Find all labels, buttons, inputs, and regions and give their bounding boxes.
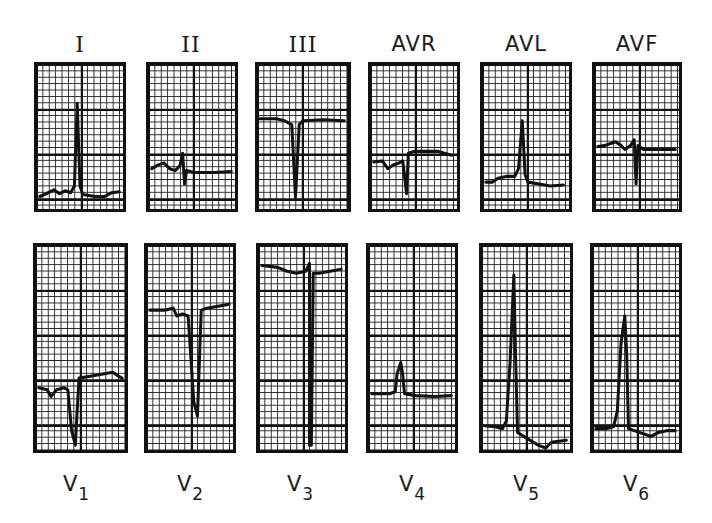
ecg-trace [372, 363, 451, 397]
ecg-grid-panel [592, 62, 682, 212]
lead-label: V4 [362, 472, 462, 504]
ecg-waveform [482, 246, 570, 450]
lead-label-text: V [513, 472, 528, 496]
lead-label-subscript: 6 [638, 484, 649, 504]
lead-label: AVR [364, 32, 464, 56]
lead-label: V2 [140, 472, 240, 504]
ecg-waveform [149, 65, 235, 209]
ecg-trace [598, 140, 675, 184]
ecg-trace [152, 153, 231, 184]
lead-label-subscript: 1 [78, 484, 89, 504]
lead-label: V5 [476, 472, 576, 504]
lead-label-text: II [181, 32, 200, 57]
lead-label-subscript: 3 [302, 484, 313, 504]
ecg-grid-panel [146, 62, 238, 212]
lead-label-text: AVF [616, 32, 658, 56]
ecg-waveform [36, 246, 125, 450]
ecg-waveform [369, 246, 455, 450]
lead-label-text: III [288, 32, 317, 57]
lead-label-text: V [399, 472, 414, 496]
lead-label-text: I [75, 32, 85, 57]
lead-label: III [253, 32, 353, 57]
ecg-grid-panel [34, 62, 126, 212]
ecg-waveform [483, 65, 569, 209]
lead-label: AVF [587, 32, 687, 56]
lead-label-text: AVL [505, 32, 547, 56]
lead-label-text: V [63, 472, 78, 496]
lead-label: V6 [586, 472, 686, 504]
lead-label-text: V [287, 472, 302, 496]
lead-label-text: V [177, 472, 192, 496]
ecg-trace [486, 121, 564, 186]
ecg-waveform [147, 246, 233, 450]
ecg-trace [40, 103, 119, 196]
lead-label: II [141, 32, 241, 57]
lead-label: V1 [26, 472, 126, 504]
ecg-waveform [258, 65, 348, 209]
ecg-grid-panel [33, 243, 128, 453]
ecg-trace [485, 275, 566, 448]
lead-label-subscript: 5 [528, 484, 539, 504]
lead-label-subscript: 4 [414, 484, 425, 504]
lead-label-subscript: 2 [192, 484, 203, 504]
ecg-trace [596, 316, 675, 436]
ecg-waveform [259, 246, 345, 450]
ecg-grid-panel [144, 243, 236, 453]
ecg-waveform [37, 65, 123, 209]
ecg-trace [39, 372, 122, 445]
ecg-grid-panel [255, 62, 351, 212]
ecg-grid-panel [368, 62, 460, 212]
ecg-trace [150, 304, 229, 416]
lead-label: V3 [250, 472, 350, 504]
ecg-waveform [371, 65, 457, 209]
ecg-trace [374, 151, 452, 193]
ecg-grid-panel [366, 243, 458, 453]
lead-label: AVL [476, 32, 576, 56]
ecg-trace [260, 119, 344, 198]
ecg-waveform [595, 65, 679, 209]
ecg-waveform [593, 246, 679, 450]
lead-label-text: AVR [392, 32, 437, 56]
ecg-grid-panel [590, 243, 682, 453]
lead-label-text: V [623, 472, 638, 496]
ecg-trace [262, 263, 341, 445]
lead-label: I [30, 32, 130, 57]
ecg-grid-panel [256, 243, 348, 453]
ecg-grid-panel [480, 62, 572, 212]
ecg-grid-panel [479, 243, 573, 453]
